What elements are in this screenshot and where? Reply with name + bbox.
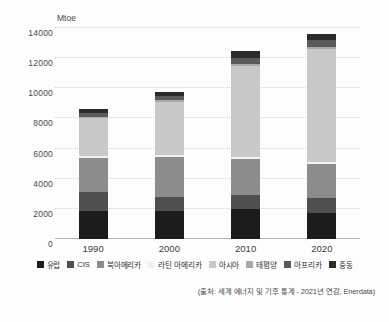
chart-legend: 유럽CIS북아메리카라틴 아메리카아시아태평양아프리카중동 — [0, 259, 389, 270]
legend-swatch-icon — [329, 261, 336, 268]
x-axis-tick-label: 2020 — [311, 243, 332, 254]
bar-segment — [307, 213, 336, 239]
x-axis-tick-label: 1990 — [83, 243, 104, 254]
legend-item-label: 중동 — [339, 259, 353, 270]
gridline — [55, 27, 360, 28]
legend-item[interactable]: 유럽 — [37, 259, 61, 270]
legend-swatch-icon — [148, 261, 155, 268]
legend-item[interactable]: CIS — [67, 260, 89, 269]
bar-segment — [79, 211, 108, 239]
x-axis-tick-label: 2000 — [159, 243, 180, 254]
bar-segment — [231, 195, 260, 209]
bar-segment — [307, 164, 336, 198]
legend-item-label: 아프리카 — [294, 259, 322, 270]
bar-segment — [231, 51, 260, 59]
bar-segment — [155, 102, 184, 156]
bar-segment — [231, 66, 260, 156]
bar-segment — [155, 211, 184, 239]
legend-swatch-icon — [37, 261, 44, 268]
legend-swatch-icon — [97, 261, 104, 268]
legend-item[interactable]: 북아메리카 — [97, 259, 142, 270]
bar-segment — [155, 197, 184, 211]
bar-segment — [79, 192, 108, 211]
legend-swatch-icon — [246, 261, 253, 268]
x-axis-tick-label: 2010 — [235, 243, 256, 254]
legend-item-label: 라틴 아메리카 — [158, 259, 201, 270]
chart-figure: Mtoe 02000400060008000100001200014000 19… — [0, 0, 389, 322]
bar-segment — [231, 159, 260, 195]
legend-swatch-icon — [284, 261, 291, 268]
bar-segment — [307, 49, 336, 161]
legend-item-label: CIS — [77, 260, 89, 269]
bar-2020 — [307, 34, 336, 239]
legend-item-label: 아시아 — [219, 259, 240, 270]
bar-segment — [79, 158, 108, 192]
source-note: (출처: 세계 에너지 및 기후 통계 - 2021년 연감, Enerdata… — [198, 285, 375, 296]
bar-segment — [79, 118, 108, 156]
bar-segment — [307, 198, 336, 213]
legend-item[interactable]: 중동 — [329, 259, 353, 270]
legend-item-label: 북아메리카 — [107, 259, 142, 270]
bar-segment — [307, 40, 336, 47]
legend-item[interactable]: 아시아 — [209, 259, 240, 270]
y-axis-unit-label: Mtoe — [57, 13, 76, 23]
legend-item[interactable]: 라틴 아메리카 — [148, 259, 201, 270]
bar-segment — [155, 157, 184, 196]
legend-item-label: 유럽 — [47, 259, 61, 270]
legend-swatch-icon — [209, 261, 216, 268]
plot-area: 02000400060008000100001200014000 1990200… — [55, 28, 360, 239]
legend-item[interactable]: 아프리카 — [284, 259, 322, 270]
bar-2010 — [231, 51, 260, 239]
legend-swatch-icon — [67, 261, 74, 268]
legend-item-label: 태평양 — [256, 259, 277, 270]
bar-segment — [231, 209, 260, 239]
bar-1990 — [79, 109, 108, 239]
legend-item[interactable]: 태평양 — [246, 259, 277, 270]
bar-2000 — [155, 92, 184, 239]
